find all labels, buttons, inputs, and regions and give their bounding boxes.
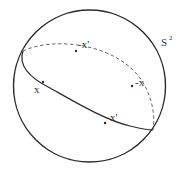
label-neg-x: -x	[135, 76, 145, 88]
label-x-prime: x'	[110, 111, 118, 123]
label-x: x	[34, 83, 40, 95]
point-neg-x-prime-marker	[75, 50, 77, 52]
point-x-marker	[42, 81, 44, 83]
label-neg-x-prime: -x'	[78, 38, 89, 50]
sphere-diagram: x x' -x -x' S 2	[0, 0, 179, 175]
great-circle-front-solid	[22, 51, 153, 130]
point-x-prime-marker	[104, 122, 106, 124]
sphere-label-superscript: 2	[169, 34, 173, 42]
point-neg-x-marker	[131, 85, 133, 87]
sphere-label: S	[161, 36, 167, 48]
